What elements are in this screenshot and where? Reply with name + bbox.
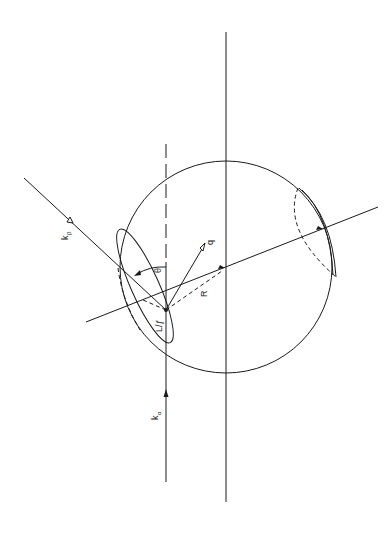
rotation-axis-line	[86, 207, 378, 322]
k-alpha-arrow-icon	[164, 389, 169, 397]
dashed-projection-line	[143, 300, 166, 310]
theta-arrow-icon	[134, 270, 141, 276]
outgoing-beam-line	[24, 178, 166, 310]
theta-label: θ	[153, 268, 163, 273]
q-label: q	[205, 240, 215, 245]
interaction-point	[164, 308, 168, 312]
k-beta-arrow-icon	[67, 217, 73, 223]
scattering-geometry-diagram: k β k α q θ R L/ƒ	[0, 0, 390, 536]
right-cap-arc-outer	[299, 188, 336, 277]
left-dashed-arc	[118, 268, 140, 330]
R-label: R	[199, 290, 209, 297]
detector-cone-ellipse	[107, 224, 183, 349]
k-alpha-subscript: α	[156, 411, 162, 415]
axis-arrow-mark-icon	[218, 265, 225, 269]
L-over-f-label: L/ƒ	[154, 319, 164, 332]
right-dashed-arc	[294, 188, 336, 277]
radius-R-line	[166, 271, 222, 310]
q-vector	[166, 249, 202, 310]
k-beta-subscript: β	[66, 231, 72, 235]
